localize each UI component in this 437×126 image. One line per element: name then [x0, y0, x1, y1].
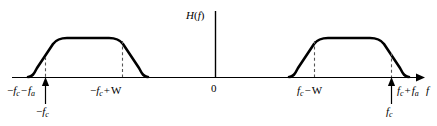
subscript-a-1: a — [31, 89, 35, 98]
up-arrow-fc — [388, 77, 395, 104]
frequency-response-figure: H(f) 0 f −fc − fa −fc −fc + W fc − W fc … — [0, 0, 437, 126]
subscript-c-2: c — [45, 110, 49, 119]
tick-label-fc: fc — [386, 106, 393, 119]
subscript-c-6: c — [389, 110, 393, 119]
operator-2: + — [104, 84, 110, 96]
x-axis — [12, 74, 425, 82]
x-axis-label: f — [426, 85, 429, 96]
operator-4: + — [405, 84, 411, 96]
origin-label: 0 — [211, 83, 217, 94]
operator-1: − — [21, 84, 27, 96]
y-axis-label-paren-close: ) — [201, 9, 205, 21]
bandwidth-symbol-1: W — [111, 84, 121, 96]
subscript-c-1: c — [16, 89, 20, 98]
tick-label-neg-fc-minus-fa: −fc − fa — [7, 85, 35, 98]
operator-3: − — [305, 84, 311, 96]
subscript-c-4: c — [300, 89, 304, 98]
tick-label-neg-fc-plus-w: −fc + W — [90, 85, 121, 98]
tick-label-neg-fc: −fc — [36, 106, 49, 119]
bandwidth-symbol-2: W — [312, 84, 322, 96]
subscript-a-2: a — [415, 89, 419, 98]
tick-label-fc-minus-w: fc − W — [297, 85, 322, 98]
y-axis-label-h: H — [186, 9, 194, 21]
tick-label-fc-plus-fa: fc + fa — [397, 85, 419, 98]
figure-canvas — [0, 0, 437, 126]
y-axis-label: H(f) — [186, 10, 204, 21]
subscript-c-5: c — [400, 89, 404, 98]
up-arrow-neg-fc — [42, 77, 49, 104]
subscript-c-3: c — [99, 89, 103, 98]
